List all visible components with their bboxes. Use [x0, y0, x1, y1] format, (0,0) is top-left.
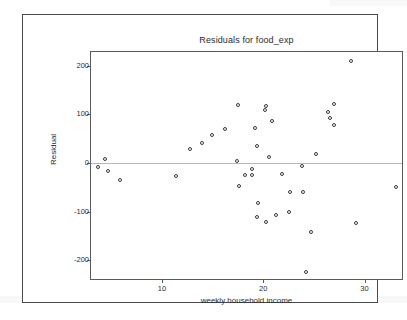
- x-axis-label: weekly household income: [90, 296, 403, 305]
- data-point: [264, 220, 268, 224]
- data-point: [223, 127, 227, 131]
- data-point: [263, 108, 267, 112]
- y-tick-label: 100: [76, 109, 89, 118]
- data-point: [200, 141, 204, 145]
- data-point: [174, 174, 178, 178]
- x-tick-mark: [162, 279, 163, 283]
- data-point: [332, 123, 336, 127]
- y-tick-label: 200: [76, 61, 89, 70]
- data-point: [210, 133, 214, 137]
- data-point: [250, 173, 254, 177]
- data-point: [301, 190, 305, 194]
- data-point: [354, 221, 358, 225]
- data-point: [274, 213, 278, 217]
- data-point: [236, 103, 240, 107]
- data-point: [103, 157, 107, 161]
- data-point: [106, 169, 110, 173]
- data-point: [96, 165, 100, 169]
- y-tick-label: -200: [74, 255, 89, 264]
- data-point: [326, 110, 330, 114]
- data-point: [304, 270, 308, 274]
- data-point: [188, 147, 192, 151]
- data-point: [235, 159, 239, 163]
- data-point: [237, 184, 241, 188]
- data-point: [300, 164, 304, 168]
- graph-window-frame: Residuals for food_exp Residual 2001000-…: [22, 14, 378, 303]
- zero-reference-line: [91, 163, 402, 164]
- data-point: [287, 210, 291, 214]
- y-tick-label: 0: [85, 158, 89, 167]
- data-point: [288, 190, 292, 194]
- x-tick-label: 10: [158, 284, 166, 293]
- y-tick-label: -100: [74, 207, 89, 216]
- x-tick-mark: [263, 279, 264, 283]
- data-point: [280, 172, 284, 176]
- data-point: [328, 116, 332, 120]
- data-point: [255, 144, 259, 148]
- data-point: [243, 173, 247, 177]
- data-point: [118, 178, 122, 182]
- x-tick-label: 20: [259, 284, 267, 293]
- data-point: [264, 104, 268, 108]
- data-point: [270, 119, 274, 123]
- data-point: [267, 155, 271, 159]
- data-point: [250, 167, 254, 171]
- data-point: [256, 201, 260, 205]
- x-tick-label: 30: [360, 284, 368, 293]
- paper-artifact-top-right: [330, 0, 407, 6]
- plot-area: 2001000-100-200 102030: [90, 51, 403, 280]
- data-point: [255, 215, 259, 219]
- data-point: [309, 230, 313, 234]
- data-point: [332, 102, 336, 106]
- data-point: [253, 126, 257, 130]
- data-point: [394, 185, 398, 189]
- data-point: [314, 152, 318, 156]
- data-point: [349, 59, 353, 63]
- x-tick-mark: [365, 279, 366, 283]
- chart-title: Residuals for food_exp: [90, 35, 403, 45]
- y-axis-label: Residual: [49, 134, 58, 165]
